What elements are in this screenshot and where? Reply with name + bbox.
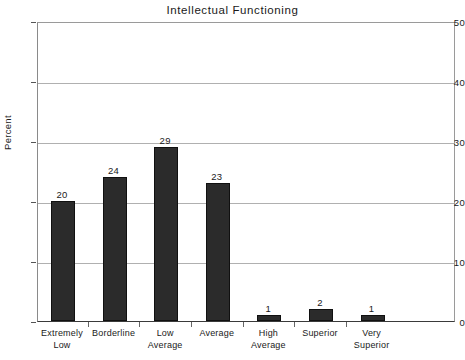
y-axis-title: Percent	[2, 115, 13, 150]
gridline	[38, 263, 454, 264]
y-tick-label: 0	[439, 317, 465, 328]
gridline	[38, 83, 454, 84]
y-tick-mark	[31, 82, 36, 83]
x-tick-mark	[191, 322, 192, 327]
bar[interactable]	[51, 201, 75, 321]
y-tick-label: 20	[439, 197, 465, 208]
x-tick-label: ExtremelyLow	[36, 328, 88, 351]
x-tick-label-line: Extremely	[36, 328, 88, 340]
x-tick-label-line: High	[242, 328, 294, 340]
y-tick-mark	[31, 22, 36, 23]
x-tick-label-line: Low	[139, 328, 191, 340]
bar[interactable]	[154, 147, 178, 321]
x-tick-mark	[88, 322, 89, 327]
bar-value-label: 2	[298, 297, 342, 308]
bar[interactable]	[257, 315, 281, 321]
x-tick-label-line: Average	[242, 340, 294, 352]
y-tick-mark	[31, 322, 36, 323]
x-tick-label-line: Superior	[346, 340, 398, 352]
y-tick-label: 10	[439, 257, 465, 268]
x-tick-mark	[139, 322, 140, 327]
bar[interactable]	[206, 183, 230, 321]
x-tick-label-line: Average	[139, 340, 191, 352]
bar[interactable]	[103, 177, 127, 321]
x-tick-label: Average	[191, 328, 243, 340]
bar-value-label: 20	[40, 189, 84, 200]
y-tick-mark	[31, 262, 36, 263]
x-tick-label: Borderline	[88, 328, 140, 340]
x-tick-label-line: Low	[36, 340, 88, 352]
x-tick-label-line: Borderline	[88, 328, 140, 340]
bar-chart-figure: Intellectual Functioning Percent 2024292…	[0, 0, 465, 360]
x-tick-label-line: Superior	[294, 328, 346, 340]
bar[interactable]	[361, 315, 385, 321]
gridline	[38, 203, 454, 204]
y-tick-label: 50	[439, 17, 465, 28]
bar-value-label: 1	[350, 303, 394, 314]
y-tick-label: 40	[439, 77, 465, 88]
x-tick-label: LowAverage	[139, 328, 191, 351]
y-tick-mark	[31, 202, 36, 203]
bar[interactable]	[309, 309, 333, 321]
gridline	[38, 143, 454, 144]
x-tick-mark	[243, 322, 244, 327]
bar-value-label: 24	[92, 165, 136, 176]
x-tick-label: HighAverage	[242, 328, 294, 351]
x-tick-label: VerySuperior	[346, 328, 398, 351]
bar-value-label: 1	[246, 303, 290, 314]
y-tick-label: 30	[439, 137, 465, 148]
x-tick-label: Superior	[294, 328, 346, 340]
bar-value-label: 23	[195, 171, 239, 182]
x-tick-label-line: Average	[191, 328, 243, 340]
x-tick-mark	[294, 322, 295, 327]
x-tick-mark	[346, 322, 347, 327]
y-tick-mark	[31, 142, 36, 143]
bar-value-label: 29	[143, 135, 187, 146]
chart-title: Intellectual Functioning	[0, 4, 465, 16]
x-tick-label-line: Very	[346, 328, 398, 340]
